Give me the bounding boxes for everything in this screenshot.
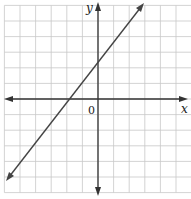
- y-axis-up-arrow-icon: [95, 2, 101, 11]
- coordinate-plane: y x 0: [0, 0, 191, 199]
- y-axis-label: y: [85, 1, 93, 15]
- origin-label: 0: [88, 104, 95, 117]
- x-axis-left-arrow-icon: [4, 96, 13, 102]
- line-lower-arrow-icon: [6, 172, 14, 181]
- y-axis-down-arrow-icon: [95, 187, 101, 196]
- line-upper-arrow-icon: [136, 3, 144, 12]
- graphed-line: [6, 3, 144, 181]
- x-axis-label: x: [181, 102, 188, 116]
